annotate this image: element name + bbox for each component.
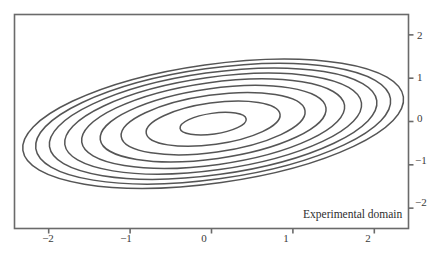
contour-ellipse	[143, 94, 283, 154]
contour-ellipse	[15, 38, 412, 209]
x-tick-label: 2	[365, 233, 371, 244]
contour-ellipse	[42, 50, 384, 197]
x-tick-label: 1	[283, 233, 289, 244]
x-tick-label: 0	[201, 233, 207, 244]
contour-ellipse	[117, 82, 309, 164]
contour-ellipse	[76, 64, 350, 182]
experimental-domain-annotation: Experimental domain	[303, 209, 402, 221]
x-tick-label: −2	[42, 233, 54, 244]
figure-container: −2 −1 0 1 2 2 1 0 −1 −2 Experimental dom…	[0, 0, 431, 258]
contour-ellipse	[95, 73, 330, 174]
contour-lines-group	[15, 38, 412, 209]
plot-frame	[15, 15, 409, 229]
x-tick-label: −1	[120, 233, 132, 244]
y-tick-label: 1	[417, 72, 423, 83]
contour-ellipse	[179, 109, 248, 139]
y-tick-label: 2	[417, 30, 423, 41]
y-tick-label: −1	[415, 155, 427, 166]
contour-ellipse	[28, 44, 398, 204]
contour-ellipse	[58, 57, 368, 190]
y-tick-label: 0	[417, 113, 423, 124]
y-tick-label: −2	[415, 197, 427, 208]
